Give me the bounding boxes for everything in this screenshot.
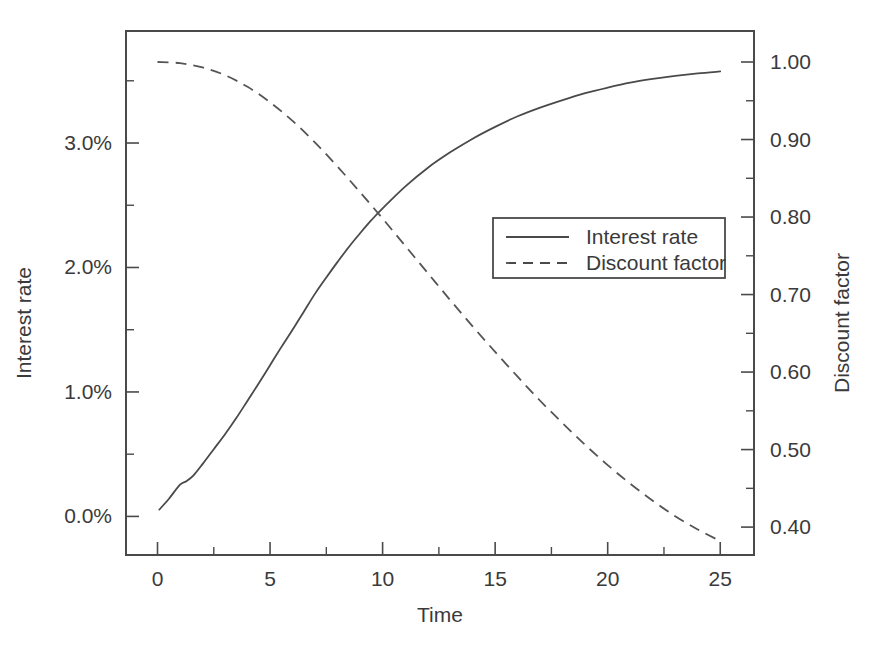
y2-tick-label: 0.90 (770, 128, 811, 151)
legend-label-interest-rate: Interest rate (586, 225, 698, 248)
x-tick-label: 25 (709, 567, 732, 590)
y2-axis-title: Discount factor (830, 253, 853, 393)
x-tick-label: 10 (371, 567, 394, 590)
x-tick-label: 5 (264, 567, 276, 590)
y-tick-label: 3.0% (64, 131, 112, 154)
y2-tick-label: 0.40 (770, 515, 811, 538)
x-axis-title: Time (417, 603, 463, 626)
y-tick-label: 2.0% (64, 255, 112, 278)
y-tick-label: 0.0% (64, 504, 112, 527)
chart-figure: 0.0%1.0%2.0%3.0% 0.400.500.600.700.800.9… (0, 0, 876, 647)
figure-background (0, 0, 876, 647)
y2-tick-label: 0.50 (770, 438, 811, 461)
y2-tick-label: 0.80 (770, 205, 811, 228)
x-tick-label: 15 (483, 567, 506, 590)
y2-tick-label: 1.00 (770, 50, 811, 73)
y-tick-label: 1.0% (64, 380, 112, 403)
x-tick-label: 0 (152, 567, 164, 590)
chart-canvas: 0.0%1.0%2.0%3.0% 0.400.500.600.700.800.9… (0, 0, 876, 647)
chart-legend: Interest rate Discount factor (493, 218, 726, 278)
y2-tick-label: 0.60 (770, 360, 811, 383)
legend-label-discount-factor: Discount factor (586, 251, 726, 274)
y2-tick-label: 0.70 (770, 283, 811, 306)
x-tick-label: 20 (596, 567, 619, 590)
y-axis-title: Interest rate (12, 267, 35, 379)
